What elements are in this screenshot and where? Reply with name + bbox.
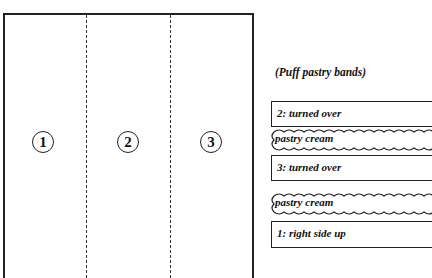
pastry-band-layer: 2: turned over — [271, 101, 432, 127]
panel-number-3: 3 — [200, 131, 222, 153]
pastry-band-layer: 1: right side up — [271, 221, 432, 248]
fold-line-1 — [86, 15, 87, 278]
panel-number-1: 1 — [32, 131, 54, 153]
diagram-caption: (Puff pastry bands) — [275, 66, 366, 78]
pastry-band-layer: 3: turned over — [271, 155, 432, 181]
cream-layer: pastry cream — [270, 129, 432, 151]
layer-label: pastry cream — [275, 196, 333, 208]
layer-label: 1: right side up — [277, 227, 346, 239]
layer-label: 2: turned over — [277, 107, 341, 119]
layer-label: pastry cream — [275, 132, 333, 144]
layer-label: 3: turned over — [277, 161, 341, 173]
panel-number-2: 2 — [117, 131, 139, 153]
cream-layer: pastry cream — [270, 193, 432, 215]
fold-line-2 — [170, 15, 171, 278]
